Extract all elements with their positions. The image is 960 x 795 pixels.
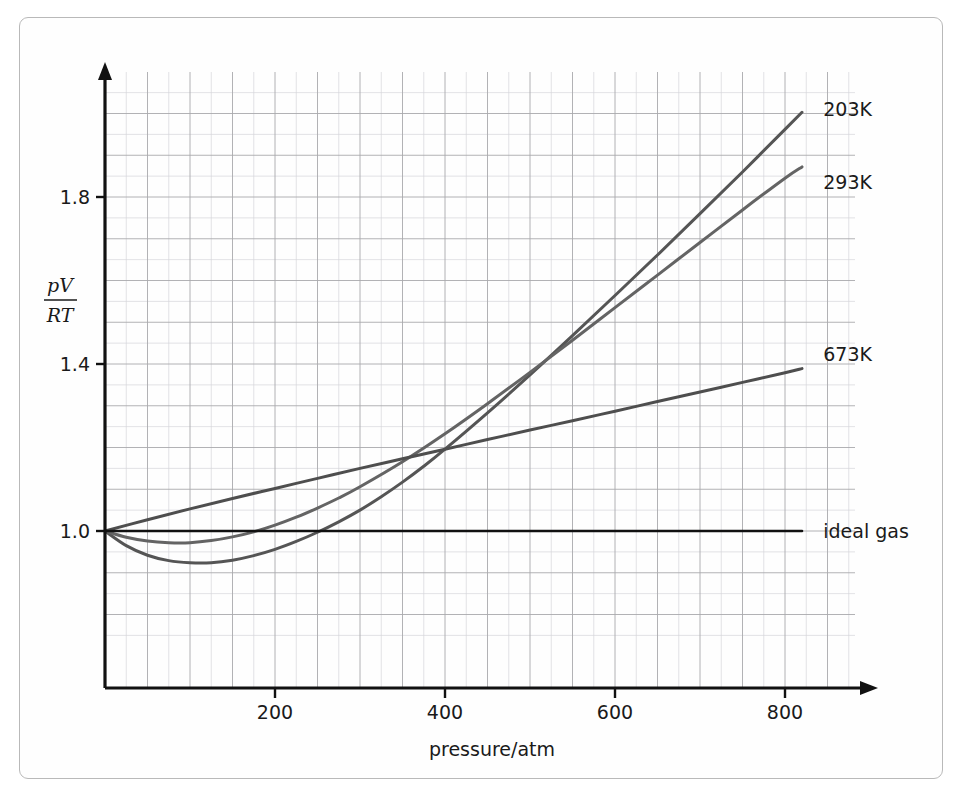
x-axis-tick-label: 800 — [767, 701, 803, 723]
series-curve-203k — [105, 112, 802, 563]
data-series-group — [105, 112, 802, 563]
y-axis-tick-labels: 1.01.41.8 — [60, 186, 90, 542]
y-axis-arrowhead — [98, 62, 112, 80]
y-axis-title: pV RT — [44, 274, 77, 326]
figure-container: 1.01.41.8 200400600800 203K293K673Kideal… — [0, 0, 960, 795]
series-curve-673k — [105, 369, 802, 531]
series-label-673k: 673K — [823, 343, 872, 365]
y-axis-tick-label: 1.4 — [60, 353, 90, 375]
grid-major-lines — [105, 72, 855, 688]
x-axis-title: pressure/atm — [429, 738, 555, 760]
x-axis-tick-labels: 200400600800 — [257, 701, 803, 723]
y-axis-title-denominator: RT — [46, 304, 75, 326]
x-axis-tick-label: 200 — [257, 701, 293, 723]
y-axis-title-numerator: pV — [47, 274, 75, 296]
y-axis-tick-label: 1.0 — [60, 520, 90, 542]
x-axis-tick-label: 400 — [427, 701, 463, 723]
chart-canvas: 1.01.41.8 200400600800 203K293K673Kideal… — [0, 0, 960, 795]
x-axis-tick-label: 600 — [597, 701, 633, 723]
series-curve-293k — [105, 167, 802, 543]
series-annotations: 203K293K673Kideal gas — [823, 98, 909, 542]
y-axis-tick-label: 1.8 — [60, 186, 90, 208]
series-label-293k: 293K — [823, 171, 872, 193]
series-label-ideal-gas: ideal gas — [823, 520, 909, 542]
series-label-203k: 203K — [823, 98, 872, 120]
x-axis-arrowhead — [860, 681, 878, 695]
